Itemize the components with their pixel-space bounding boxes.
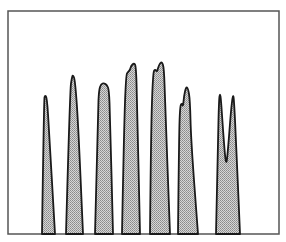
peak-7: [216, 95, 240, 234]
peak-6: [178, 87, 198, 234]
peak-1: [42, 96, 55, 234]
peak-4: [122, 64, 140, 234]
peak-5: [150, 62, 170, 234]
peak-3: [95, 83, 113, 234]
chromatogram-chart: [0, 0, 286, 242]
peak-2: [66, 76, 83, 234]
peaks-group: [42, 62, 240, 234]
